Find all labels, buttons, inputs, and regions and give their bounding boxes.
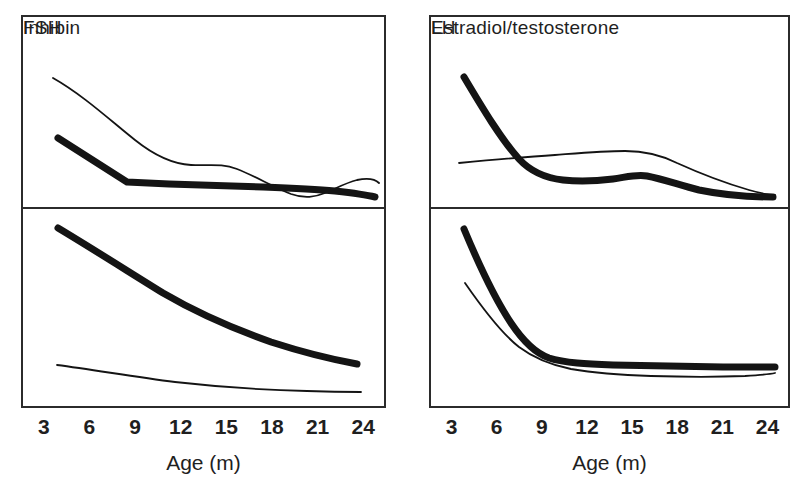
x-tick-label: 21 [295,415,341,439]
x-tick-label: 15 [610,415,655,439]
x-tick-label: 24 [340,415,386,439]
panel-title-estradiol: Estradiol/testosterone [431,17,619,39]
x-tick-label: 9 [519,415,564,439]
panel-group-left: FSH Inhibin [21,15,386,408]
left-curves-svg [23,17,384,406]
x-axis-tick-labels-left: 3 6 9 12 15 18 21 24 [21,415,386,443]
x-tick-label: 6 [67,415,113,439]
x-tick-label: 18 [655,415,700,439]
x-axis-title-left: Age (m) [21,451,386,475]
x-tick-label: 18 [249,415,295,439]
x-tick-label: 9 [112,415,158,439]
x-axis-title-right: Age (m) [429,451,790,475]
x-tick-label: 3 [429,415,474,439]
x-tick-label: 24 [745,415,790,439]
right-curves-svg [431,17,788,406]
inhibin-thick-curve [58,228,357,364]
hormone-profile-figure: FSH Inhibin LH Estradiol/testosterone 3 … [0,0,805,493]
x-tick-label: 6 [474,415,519,439]
estradiol-thick-curve [464,229,775,367]
x-tick-label: 21 [700,415,745,439]
x-axis-tick-labels-right: 3 6 9 12 15 18 21 24 [429,415,790,443]
x-tick-label: 12 [158,415,204,439]
x-tick-label: 12 [564,415,609,439]
fsh-thin-curve [53,78,379,197]
fsh-thick-curve [58,138,375,197]
x-tick-label: 3 [21,415,67,439]
panel-title-inhibin: Inhibin [23,17,80,39]
inhibin-thin-curve [57,365,361,392]
x-tick-label: 15 [204,415,250,439]
lh-thin-curve [459,151,775,195]
panel-group-right: LH Estradiol/testosterone [429,15,790,408]
lh-thick-curve [464,77,773,197]
